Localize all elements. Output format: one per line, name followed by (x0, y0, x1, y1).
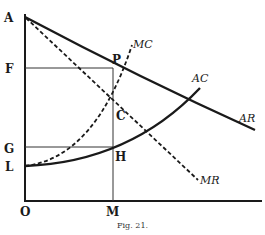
ar-curve (25, 17, 255, 130)
label-mr: MR (199, 174, 220, 187)
diagram-canvas: A F G L O M P C H MC AC AR MR Fig. 21. (0, 0, 265, 235)
label-g: G (4, 142, 14, 156)
label-l: L (5, 160, 14, 174)
mr-curve (26, 18, 198, 180)
label-h: H (115, 150, 126, 164)
label-m: M (106, 205, 119, 219)
label-ac: AC (191, 72, 209, 85)
label-ar: AR (238, 112, 255, 125)
label-f: F (5, 62, 14, 76)
label-mc: MC (132, 38, 153, 51)
label-c: C (116, 109, 126, 123)
figure-21: A F G L O M P C H MC AC AR MR Fig. 21. (0, 0, 265, 235)
label-p: P (112, 53, 121, 67)
label-a: A (3, 11, 14, 25)
figure-caption: Fig. 21. (117, 221, 148, 230)
label-o: O (20, 205, 30, 219)
